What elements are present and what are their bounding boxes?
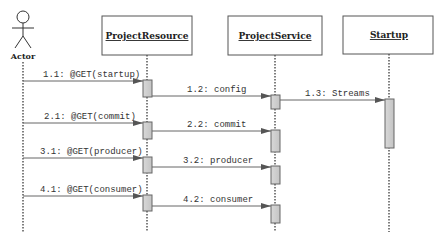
message-label: 4.2: consumer [183, 195, 253, 205]
actor-head-icon [17, 11, 29, 23]
object-startup: Startup [343, 16, 433, 54]
message-label: 2.1: @GET(commit) [44, 112, 136, 122]
message-label: 2.2: commit [187, 120, 246, 130]
message-label: 3.2: producer [183, 156, 253, 166]
actor-label: Actor [10, 51, 36, 61]
actor: Actor [10, 11, 36, 61]
message-label: 3.1: @GET(producer) [40, 147, 143, 157]
message-label: 1.1: @GET(startup) [43, 70, 140, 80]
message-label: 1.2: config [187, 85, 246, 95]
sequence-diagram: Actor ProjectResource ProjectService Sta… [0, 0, 445, 240]
object-label: Startup [370, 30, 408, 40]
message-label: 1.3: Streams [305, 89, 370, 99]
object-project-service: ProjectService [228, 16, 322, 55]
message-label: 4.1: @GET(consumer) [40, 185, 143, 195]
activations [143, 80, 394, 223]
object-project-resource: ProjectResource [102, 16, 192, 55]
object-label: ProjectResource [106, 31, 189, 41]
object-label: ProjectService [239, 31, 312, 41]
